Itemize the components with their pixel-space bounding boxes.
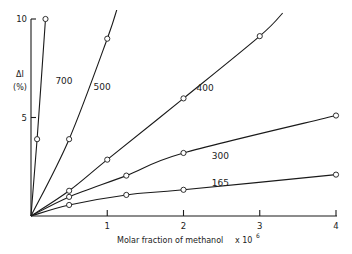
series-label-400: 400 [196, 83, 213, 93]
y-tick-label: 10 [16, 14, 27, 24]
x-tick-label: 1 [105, 221, 110, 231]
series-line-165 [31, 175, 336, 216]
data-point-400 [67, 188, 72, 193]
data-point-165 [67, 202, 72, 207]
x-axis-multiplier: x 10 [235, 236, 252, 245]
data-point-165 [124, 192, 129, 197]
data-point-300 [124, 173, 129, 178]
data-point-700 [43, 16, 48, 21]
data-point-400 [105, 157, 110, 162]
x-axis-exponent: 6 [256, 232, 260, 239]
x-axis-label: Molar fraction of methanol [117, 236, 223, 245]
axes [31, 19, 337, 216]
x-tick-label: 3 [257, 221, 262, 231]
x-tick-label: 4 [333, 221, 338, 231]
data-point-300 [333, 113, 338, 118]
data-point-300 [181, 150, 186, 155]
data-point-500 [105, 36, 110, 41]
series-label-700: 700 [55, 76, 72, 86]
y-axis-label: ΔI [16, 70, 24, 79]
series-label-500: 500 [94, 82, 111, 92]
data-point-400 [257, 34, 262, 39]
data-point-700 [35, 137, 40, 142]
y-axis-unit: (%) [13, 83, 27, 92]
x-tick-label: 2 [181, 221, 186, 231]
data-point-500 [67, 137, 72, 142]
data-point-165 [181, 187, 186, 192]
series-line-300 [31, 116, 336, 216]
chart: 1234510 700500400300165 ΔI (%) Molar fra… [0, 0, 352, 254]
data-point-400 [181, 96, 186, 101]
series-lines [31, 3, 336, 216]
series-line-400 [31, 13, 283, 216]
data-point-300 [67, 194, 72, 199]
data-point-165 [333, 172, 338, 177]
ticks [31, 19, 336, 216]
series-label-300: 300 [212, 151, 229, 161]
y-tick-label: 5 [22, 113, 27, 123]
series-label-165: 165 [212, 178, 229, 188]
